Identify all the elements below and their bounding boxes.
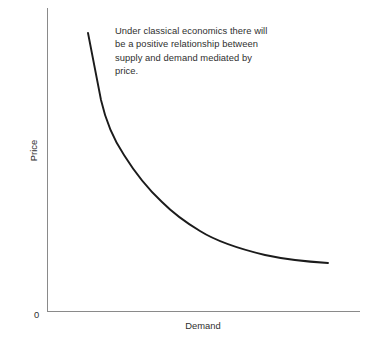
annotation-line-2: be a positive relationship between [115,37,330,50]
annotation-line-4: price. [115,64,330,77]
y-axis-label: Price [28,111,39,191]
annotation-line-1: Under classical economics there will [115,24,330,37]
chart-figure: Under classical economics there will be … [0,0,370,341]
annotation-line-3: supply and demand mediated by [115,51,330,64]
origin-label: 0 [34,309,39,320]
chart-annotation: Under classical economics there will be … [115,24,330,78]
x-axis-label: Demand [143,320,263,331]
